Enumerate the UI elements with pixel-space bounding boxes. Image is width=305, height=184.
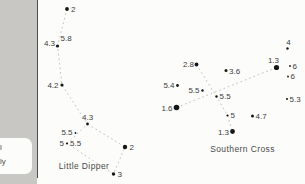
star-magnitude-label: 5 xyxy=(231,111,236,120)
constellation-name: Southern Cross xyxy=(210,144,275,154)
star-magnitude-label: 5.8 xyxy=(61,34,73,43)
star-magnitude-label: 5.5 xyxy=(188,86,200,95)
star-magnitude-label: 5.3 xyxy=(290,95,302,104)
star-magnitude-label: 4.3 xyxy=(82,113,94,122)
star-dot xyxy=(123,145,127,149)
star-dot xyxy=(176,84,179,87)
star-magnitude-label: 3 xyxy=(118,170,123,179)
star-magnitude-label: 2.8 xyxy=(183,60,195,69)
star-dot xyxy=(66,142,68,144)
star-dot xyxy=(65,7,69,11)
star-dot xyxy=(226,114,228,116)
star-magnitude-label: 4.3 xyxy=(44,39,56,48)
star-magnitude-label: 4 xyxy=(286,38,291,47)
star-dot xyxy=(56,44,59,47)
star-magnitude-label: 5.5 xyxy=(220,92,232,101)
star-magnitude-label: 5.4 xyxy=(163,81,175,90)
star-dot xyxy=(286,98,288,100)
constellation-name: Little Dipper xyxy=(59,161,110,171)
star-magnitude-label: 5 xyxy=(60,139,65,148)
star-dot xyxy=(60,83,63,86)
star-dot xyxy=(112,172,115,175)
star-magnitude-label: 6 xyxy=(293,62,298,71)
star-magnitude-label: 5.5 xyxy=(61,128,73,137)
star-dot xyxy=(86,123,89,126)
star-magnitude-label: 4.2 xyxy=(47,81,59,90)
star-dot xyxy=(287,76,289,78)
star-magnitude-label: 4.7 xyxy=(256,112,268,121)
star-magnitude-label: 1.3 xyxy=(268,56,280,65)
star-dot xyxy=(230,129,235,134)
star-magnitude-label: 2 xyxy=(71,5,76,14)
star-map-svg: 24.35.84.24.35.555.523Little Dipper2.83.… xyxy=(0,0,305,184)
star-magnitude-label: 6 xyxy=(291,72,296,81)
star-dot xyxy=(75,132,77,134)
star-magnitude-label: 1.6 xyxy=(161,104,173,113)
star-magnitude-label: 1.3 xyxy=(218,128,230,137)
star-magnitude-label: 2 xyxy=(130,143,135,152)
star-dot xyxy=(274,65,279,70)
star-dot xyxy=(286,47,288,49)
scanned-page-fragment: l ly 24.35.84.24.35.555.523Little Dipper… xyxy=(0,0,305,184)
star-dot xyxy=(215,95,217,97)
star-dot xyxy=(289,65,291,67)
star-dot xyxy=(201,89,203,91)
star-dot xyxy=(174,105,180,111)
star-magnitude-label: 3.6 xyxy=(229,67,241,76)
star-dot xyxy=(251,115,254,118)
star-dot xyxy=(195,63,199,67)
star-magnitude-label: 5.5 xyxy=(70,139,82,148)
star-dot xyxy=(225,69,228,72)
